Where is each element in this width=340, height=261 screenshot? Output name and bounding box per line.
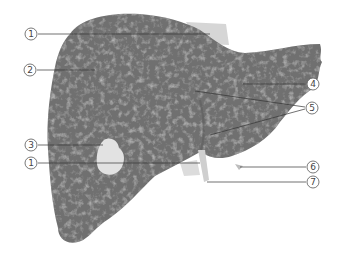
callout-5: 5	[306, 102, 318, 114]
liver-texture	[0, 0, 340, 261]
callout-6: 6	[307, 161, 319, 173]
porta-hepatis-structure	[180, 160, 200, 176]
callout-number: 7	[310, 177, 316, 187]
callout-7: 7	[307, 176, 319, 188]
callout-1b: 1	[25, 157, 37, 169]
callout-number: 1	[28, 29, 34, 39]
callout-3: 3	[25, 139, 37, 151]
callout-number: 3	[28, 140, 34, 150]
callout-number: 2	[27, 65, 33, 75]
callout-1a: 1	[25, 28, 37, 40]
liver	[0, 0, 340, 261]
callout-number: 1	[28, 158, 34, 168]
callout-number: 5	[309, 103, 315, 113]
liver-diagram: 1 2 3 1 4 5 6 7	[0, 0, 340, 261]
callout-number: 6	[310, 162, 316, 172]
callout-2: 2	[24, 64, 36, 76]
callout-number: 4	[310, 79, 316, 89]
callout-4: 4	[307, 78, 319, 90]
